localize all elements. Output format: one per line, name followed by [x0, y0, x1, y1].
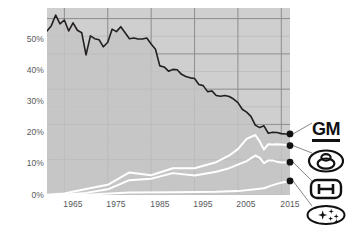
gm-logo: GM — [312, 120, 340, 142]
x-tick-1965: 1965 — [63, 200, 82, 209]
chart-root: 0% 10% 20% 30% 40% 50% 1965 1975 1985 19… — [0, 0, 356, 232]
x-tick-1975: 1975 — [106, 200, 125, 209]
toyota-logo — [307, 149, 345, 173]
legend: GM — [300, 6, 354, 228]
legend-item-honda[interactable] — [300, 176, 352, 202]
endpoint-dot-honda — [287, 159, 294, 166]
subaru-logo — [306, 204, 346, 226]
x-tick-2015: 2015 — [280, 200, 299, 209]
legend-item-toyota[interactable] — [300, 148, 352, 174]
legend-item-subaru[interactable] — [300, 202, 352, 228]
endpoint-dot-gm — [287, 131, 294, 138]
x-tick-1995: 1995 — [193, 200, 212, 209]
honda-logo — [309, 177, 343, 201]
legend-item-gm[interactable]: GM — [300, 118, 352, 144]
endpoint-dot-subaru — [287, 177, 294, 184]
x-tick-1985: 1985 — [150, 200, 169, 209]
endpoint-dot-toyota — [287, 142, 294, 149]
x-tick-2005: 2005 — [236, 200, 255, 209]
